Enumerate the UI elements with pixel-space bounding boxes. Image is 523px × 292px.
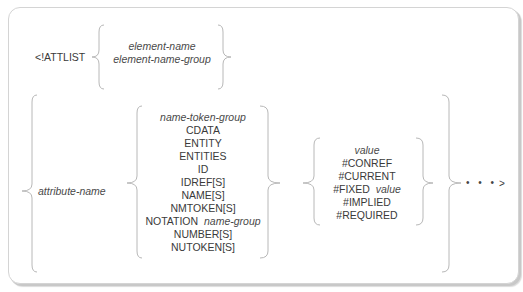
- declared-option-id: ID: [140, 163, 266, 176]
- declared-option-nutokens: NUTOKEN[S]: [140, 241, 266, 254]
- element-name-option: element-name: [110, 40, 214, 53]
- continuation-dots: • • •: [466, 177, 497, 188]
- element-name-group-option: element-name-group: [110, 53, 214, 66]
- outer-right-brace: [442, 95, 461, 272]
- element-group: element-name element-name-group: [110, 40, 214, 66]
- fixed-value: value: [376, 183, 401, 195]
- attlist-keyword: <!ATTLIST: [35, 51, 85, 64]
- attribute-name-label: attribute-name: [38, 185, 106, 198]
- element-group-left-brace: [92, 25, 104, 89]
- declared-option-entity: ENTITY: [140, 137, 266, 150]
- notation-keyword: NOTATION: [145, 215, 198, 227]
- default-option-required: #REQUIRED: [318, 209, 416, 222]
- declared-option-idrefs: IDREF[S]: [140, 176, 266, 189]
- declared-option-entities: ENTITIES: [140, 150, 266, 163]
- outer-left-brace: [22, 95, 37, 272]
- declared-option-nmtokens: NMTOKEN[S]: [140, 202, 266, 215]
- default-option-conref: #CONREF: [318, 157, 416, 170]
- default-group-right-brace: [416, 138, 433, 225]
- fixed-keyword: #FIXED: [333, 183, 370, 195]
- declared-option-names: NAME[S]: [140, 189, 266, 202]
- closing-bracket: >: [499, 177, 505, 190]
- default-option-value: value: [318, 144, 416, 157]
- declared-option-cdata: CDATA: [140, 124, 266, 137]
- declared-option-numbers: NUMBER[S]: [140, 228, 266, 241]
- default-value-group: value #CONREF #CURRENT #FIXED value #IMP…: [318, 144, 416, 222]
- declared-value-group: name-token-group CDATA ENTITY ENTITIES I…: [140, 111, 266, 254]
- declared-option-notation: NOTATION name-group: [140, 215, 266, 228]
- notation-name-group: name-group: [204, 215, 261, 227]
- element-group-right-brace: [218, 25, 231, 89]
- default-option-current: #CURRENT: [318, 170, 416, 183]
- default-option-fixed: #FIXED value: [318, 183, 416, 196]
- declared-option-name-token-group: name-token-group: [140, 111, 266, 124]
- default-option-implied: #IMPLIED: [318, 196, 416, 209]
